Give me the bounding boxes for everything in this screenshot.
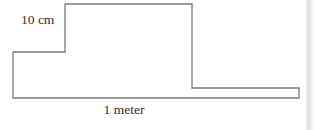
- step-shape-outline: [13, 4, 299, 98]
- width-dimension-label: 1 meter: [0, 103, 248, 117]
- geometry-figure: 10 cm 1 meter: [0, 0, 314, 130]
- scan-edge-artifact: [305, 0, 314, 130]
- height-dimension-label: 10 cm: [21, 13, 54, 27]
